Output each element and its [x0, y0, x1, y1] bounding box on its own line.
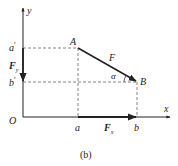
point-B-label: B [140, 76, 146, 87]
a-prime-label: a′ [9, 41, 16, 53]
x-axis-label: x [163, 103, 169, 114]
projection-diagram: y x O A B a′ b′ a b F α Fy Fx (b) [0, 0, 178, 166]
b-label: b [134, 122, 139, 133]
force-F-label: F [108, 52, 116, 63]
force-Fx-label: Fx [103, 122, 114, 135]
point-A-label: A [69, 36, 77, 47]
figure-caption: (b) [80, 149, 92, 161]
force-Fy-label: Fy [8, 60, 19, 73]
a-label: a [75, 122, 80, 133]
angle-alpha-label: α [111, 71, 116, 81]
force-vector-F [78, 48, 136, 81]
y-axis-label: y [26, 5, 32, 16]
origin-label: O [9, 115, 16, 126]
b-prime-label: b′ [9, 76, 16, 88]
angle-alpha-arc [124, 76, 126, 83]
